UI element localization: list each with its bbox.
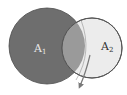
label-a1-text: A (34, 42, 42, 55)
label-a2: A2 (101, 41, 113, 56)
label-a2-text: A (101, 40, 109, 53)
label-a1-subscript: 1 (42, 48, 46, 56)
label-a2-subscript: 2 (109, 46, 113, 54)
label-a1: A1 (34, 43, 46, 58)
